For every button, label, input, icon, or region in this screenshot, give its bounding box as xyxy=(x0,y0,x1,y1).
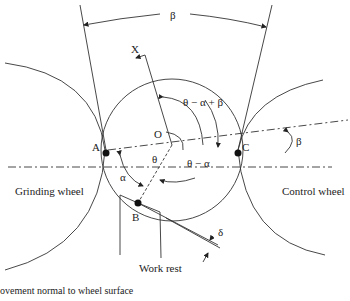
diagram-canvas xyxy=(0,0,350,301)
beta-right-label: β xyxy=(296,136,302,147)
control-wheel-outline xyxy=(238,80,325,255)
theta-label: θ xyxy=(152,154,157,165)
beta-top-label: β xyxy=(170,10,176,21)
control-wheel-label: Control wheel xyxy=(282,186,345,197)
theta-alpha-label: θ − α xyxy=(187,158,210,169)
point-a-label: A xyxy=(92,142,100,153)
grinding-wheel-label: Grinding wheel xyxy=(15,186,84,197)
caption-text: ovement normal to wheel surface xyxy=(0,286,133,296)
delta-label: δ xyxy=(218,227,223,238)
work-rest-label: Work rest xyxy=(139,263,182,274)
point-x-label: X xyxy=(131,44,139,55)
point-o-label: O xyxy=(154,129,162,140)
theta-alpha-beta-label: θ − α + β xyxy=(183,97,223,108)
grinding-wheel-outline xyxy=(5,63,105,270)
alpha-label: α xyxy=(120,172,126,183)
point-c-label: C xyxy=(242,142,249,153)
point-b-label: B xyxy=(132,212,139,223)
